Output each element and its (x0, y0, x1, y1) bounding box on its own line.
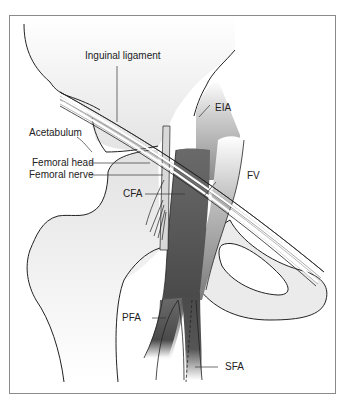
label-pfa: PFA (122, 313, 141, 323)
label-sfa: SFA (225, 362, 244, 372)
anatomy-figure: Inguinal ligament Acetabulum Femoral hea… (0, 0, 346, 406)
label-cfa: CFA (123, 189, 142, 199)
label-femoral-nerve: Femoral nerve (29, 170, 93, 180)
label-eia: EIA (215, 103, 231, 113)
label-fv: FV (247, 171, 260, 181)
label-acetabulum: Acetabulum (29, 128, 82, 138)
label-femoral-head: Femoral head (32, 158, 94, 168)
label-inguinal-ligament: Inguinal ligament (85, 51, 161, 61)
